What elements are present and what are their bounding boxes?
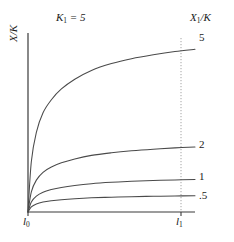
- series-endpoint-label-5: 5: [199, 32, 205, 43]
- curve-p5: [28, 196, 195, 212]
- series-endpoint-label-1: 1: [199, 171, 205, 182]
- curve-group: [28, 49, 195, 212]
- curve-5: [28, 49, 195, 212]
- chart-title: K1 = 5: [56, 12, 86, 25]
- right-axis-label: X1/K: [190, 12, 211, 25]
- x-tick-label-l0: l0: [23, 216, 30, 229]
- chart-figure: K1 = 5 X1/K X/K l0 l1 5 2 1 .5: [0, 0, 234, 242]
- curve-2: [28, 147, 195, 212]
- y-axis-label: X/K: [8, 25, 19, 42]
- x-tick-label-l1: l1: [176, 216, 183, 229]
- series-endpoint-label-point5: .5: [199, 190, 207, 201]
- series-endpoint-label-2: 2: [199, 139, 205, 150]
